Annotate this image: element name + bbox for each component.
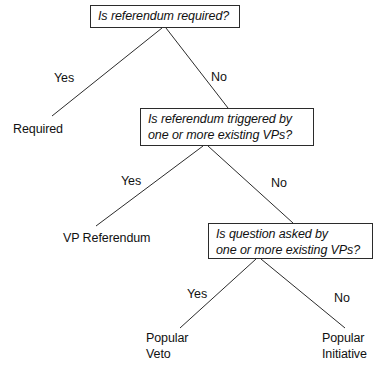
decision-tree-diagram: Is referendum required? Is referendum tr…: [0, 0, 381, 373]
edge-line-q3-no: [261, 259, 345, 328]
edge-line-q2-yes: [96, 146, 203, 226]
decision-node-is-referendum-triggered-by-vps: Is referendum triggered by one or more e…: [140, 108, 314, 146]
decision-node-is-referendum-required: Is referendum required?: [90, 5, 240, 28]
edge-label-q3-no: No: [334, 291, 350, 305]
edge-label-q1-yes: Yes: [54, 71, 74, 85]
edge-line-q1-no: [166, 28, 228, 108]
edge-layer: [0, 0, 381, 373]
outcome-popular-veto: Popular Veto: [146, 331, 188, 362]
edge-label-q2-yes: Yes: [121, 174, 141, 188]
edge-label-q2-no: No: [271, 176, 287, 190]
decision-node-is-question-asked-by-vps: Is question asked by one or more existin…: [208, 223, 373, 259]
outcome-popular-initiative: Popular Initiative: [322, 331, 367, 362]
edge-label-q3-yes: Yes: [187, 287, 207, 301]
edge-label-q1-no: No: [211, 70, 227, 84]
outcome-vp-referendum: VP Referendum: [63, 231, 150, 247]
outcome-required: Required: [13, 122, 63, 138]
